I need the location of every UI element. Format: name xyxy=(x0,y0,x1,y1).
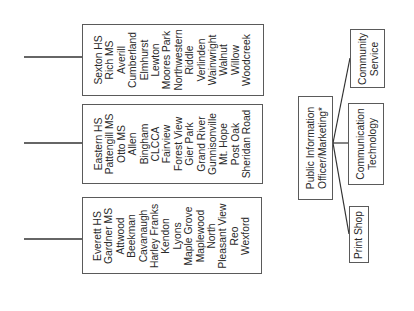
school-name: Beekman xyxy=(126,203,137,268)
school-name: Walnut xyxy=(219,29,230,90)
print-shop-box: Print Shop xyxy=(349,206,369,263)
school-name: Elmhurst xyxy=(139,29,150,90)
school-name: Bingham xyxy=(138,110,149,179)
school-name: Eastern HS xyxy=(93,110,104,179)
school-name: Sexton HS xyxy=(93,29,104,90)
label-line: Service xyxy=(368,32,380,84)
school-name: Pattengill MS xyxy=(104,110,115,179)
school-name: Gardner MS xyxy=(104,203,115,268)
school-name: Rich MS xyxy=(105,29,116,90)
school-group-box-3: Everett HS Gardner MS Attwood Beekman Ca… xyxy=(82,197,262,274)
communication-technology-label: Communication Technology xyxy=(355,108,378,180)
school-list-1: Sexton HS Rich MS Averill Cumberland Elm… xyxy=(93,29,253,90)
school-name: Sheridan Road xyxy=(241,110,252,179)
communication-technology-box: Communication Technology xyxy=(348,103,384,185)
school-name: Willow xyxy=(230,29,241,90)
school-name: Harley Franks xyxy=(149,203,160,268)
school-name: Forest View xyxy=(173,110,184,179)
school-name: Otto MS xyxy=(115,110,126,179)
school-name: Gunnisonville xyxy=(207,110,218,179)
school-list-2: Eastern HS Pattengill MS Otto MS Allen B… xyxy=(93,110,253,179)
label-line: Technology xyxy=(366,108,378,180)
school-name: Maplewood xyxy=(195,203,206,268)
school-name: Post Oak xyxy=(230,110,241,179)
school-group-box-1: Sexton HS Rich MS Averill Cumberland Elm… xyxy=(82,24,264,96)
public-information-officer-box: Public Information Officer/Marketing* xyxy=(298,96,333,200)
label-line: Public Information xyxy=(304,107,316,189)
school-name: Everett HS xyxy=(92,203,103,268)
school-name: Riddle xyxy=(184,29,195,90)
school-list-3: Everett HS Gardner MS Attwood Beekman Ca… xyxy=(92,203,252,268)
school-name: Moores Park xyxy=(162,29,173,90)
label-line: Community xyxy=(356,32,368,84)
school-name: Pleasant View xyxy=(218,203,229,268)
school-name: Allen xyxy=(127,110,138,179)
school-group-box-2: Eastern HS Pattengill MS Otto MS Allen B… xyxy=(82,104,263,184)
school-name: Verlinden xyxy=(196,29,207,90)
label-line: Officer/Marketing* xyxy=(316,107,328,189)
school-name: Kendon xyxy=(161,203,172,268)
school-name: Averill xyxy=(116,29,127,90)
school-name: Fairview xyxy=(161,110,172,179)
school-name: Wainwright xyxy=(207,29,218,90)
school-name: Mt. Hope xyxy=(218,110,229,179)
label-line: Communication xyxy=(355,108,367,180)
school-name: Gier Park xyxy=(184,110,195,179)
school-name: North xyxy=(206,203,217,268)
public-information-officer-label: Public Information Officer/Marketing* xyxy=(304,107,327,189)
school-name: Wexford xyxy=(240,203,251,268)
school-name: Northwestern xyxy=(173,29,184,90)
school-name: Cumberland xyxy=(127,29,138,90)
school-name: Cavanaugh xyxy=(138,203,149,268)
school-name: CLCCA xyxy=(150,110,161,179)
school-name: Reo xyxy=(229,203,240,268)
label-line: Print Shop xyxy=(353,210,365,258)
community-service-box: Community Service xyxy=(350,29,385,88)
community-service-label: Community Service xyxy=(356,32,379,84)
school-name: Grand River xyxy=(195,110,206,179)
school-name: Woodcreek xyxy=(241,29,252,90)
school-name: Maple Grove xyxy=(183,203,194,268)
school-name: Lewton xyxy=(150,29,161,90)
print-shop-label: Print Shop xyxy=(353,210,365,258)
school-name: Attwood xyxy=(115,203,126,268)
school-name: Lyons xyxy=(172,203,183,268)
